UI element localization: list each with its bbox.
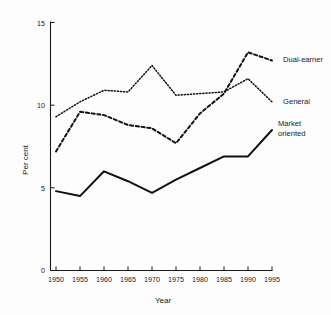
series-label-market-oriented-line1: Market	[278, 119, 302, 128]
x-axis-ticks	[56, 267, 272, 271]
y-tick-label-5: 5	[41, 184, 45, 193]
series-line-dual-earner	[56, 52, 272, 151]
series-line-general	[56, 65, 272, 116]
x-tick-label-1980: 1980	[192, 275, 208, 284]
y-tick-label-15: 15	[37, 19, 45, 28]
x-tick-label-1960: 1960	[96, 275, 112, 284]
x-tick-label-1950: 1950	[48, 275, 64, 284]
y-axis-title: Per cent	[21, 144, 30, 175]
x-tick-label-1970: 1970	[144, 275, 160, 284]
x-tick-label-1965: 1965	[120, 275, 136, 284]
x-tick-label-1995: 1995	[264, 275, 280, 284]
chart-axes	[51, 22, 273, 271]
x-axis-title: Year	[155, 296, 172, 305]
y-tick-label-10: 10	[37, 101, 45, 110]
series-label-market-oriented-line2: oriented	[278, 129, 305, 138]
x-tick-label-1955: 1955	[72, 275, 88, 284]
x-tick-label-1990: 1990	[240, 275, 256, 284]
y-tick-label-0: 0	[41, 266, 45, 275]
chart-figure: 0 5 10 15 Per cent 1950 1955 1960 1965 1…	[0, 0, 331, 315]
x-tick-label-1985: 1985	[216, 275, 232, 284]
series-line-market-oriented	[56, 130, 272, 196]
x-tick-label-1975: 1975	[168, 275, 184, 284]
series-label-general: General	[283, 97, 310, 106]
line-chart: 0 5 10 15 Per cent 1950 1955 1960 1965 1…	[0, 0, 331, 315]
y-axis-ticks	[51, 23, 55, 271]
series-label-dual-earner: Dual-earner	[283, 55, 324, 64]
